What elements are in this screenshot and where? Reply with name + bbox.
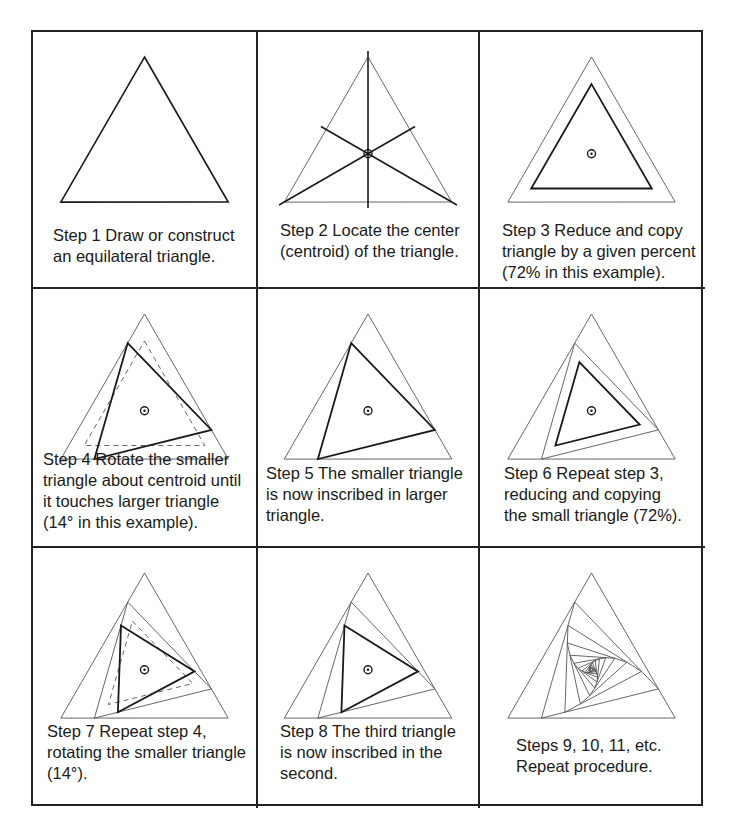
- panel-step-6: Step 6 Repeat step 3, reducing and copyi…: [480, 289, 705, 548]
- spiral-triangle: [508, 573, 675, 718]
- outer-triangle: [284, 314, 451, 459]
- panel-step-2: Step 2 Locate the center (centroid) of t…: [258, 32, 480, 289]
- outer-triangle: [61, 314, 228, 459]
- outer-triangle: [508, 57, 675, 202]
- centroid-marker-icon: [141, 666, 149, 674]
- third-triangle-rotated: [118, 625, 195, 712]
- second-triangle: [318, 602, 435, 718]
- panel-step-8: Step 8 The third triangle is now inscrib…: [258, 548, 480, 808]
- centroid-marker-icon: [588, 407, 596, 415]
- panel-step-4: Step 4 Rotate the smaller triangle about…: [33, 289, 258, 548]
- centroid-marker-icon: [141, 407, 149, 415]
- centroid-marker-icon: [364, 407, 372, 415]
- centroid-marker-icon: [588, 150, 596, 158]
- step-6-caption: Step 6 Repeat step 3, reducing and copyi…: [504, 463, 682, 526]
- median-line: [321, 127, 457, 206]
- rotated-triangle: [94, 343, 211, 459]
- panel-step-1: Step 1 Draw or construct an equilateral …: [33, 32, 258, 289]
- second-triangle: [541, 343, 658, 459]
- step-9-caption: Steps 9, 10, 11, etc. Repeat procedure.: [516, 735, 662, 777]
- third-triangle-reduced: [555, 362, 639, 445]
- panel-step-7: Step 7 Repeat step 4, rotating the small…: [33, 548, 258, 808]
- steps-grid: Step 1 Draw or construct an equilateral …: [31, 30, 703, 806]
- step-8-caption: Step 8 The third triangle is now inscrib…: [280, 721, 456, 784]
- panel-step-5: Step 5 The smaller triangle is now inscr…: [258, 289, 480, 548]
- outer-triangle: [284, 573, 451, 718]
- step-7-caption: Step 7 Repeat step 4, rotating the small…: [47, 721, 246, 784]
- step-3-caption: Step 3 Reduce and copy triangle by a giv…: [502, 220, 696, 283]
- step-1-caption: Step 1 Draw or construct an equilateral …: [53, 225, 235, 267]
- panel-step-3: Step 3 Reduce and copy triangle by a giv…: [480, 32, 705, 289]
- reduced-triangle: [531, 84, 652, 188]
- centroid-marker-icon: [364, 666, 372, 674]
- inscribed-triangle: [318, 343, 435, 459]
- step-5-caption: Step 5 The smaller triangle is now inscr…: [266, 463, 463, 526]
- panel-step-9: Steps 9, 10, 11, etc. Repeat procedure.: [480, 548, 705, 808]
- step-4-caption: Step 4 Rotate the smaller triangle about…: [43, 449, 241, 533]
- median-line: [279, 127, 415, 206]
- spiral-triangle: [541, 602, 658, 718]
- outer-triangle: [61, 573, 228, 718]
- third-triangle: [341, 625, 418, 712]
- equilateral-triangle: [61, 57, 228, 202]
- step-2-caption: Step 2 Locate the center (centroid) of t…: [280, 220, 460, 262]
- second-triangle: [94, 602, 211, 718]
